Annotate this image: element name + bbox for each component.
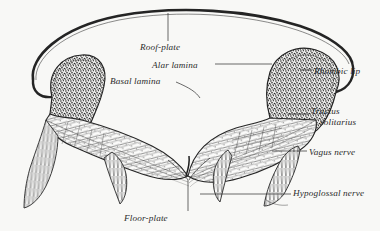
label-tractus-solitarius: Tractus solitarius bbox=[311, 106, 356, 128]
label-tractus-line2: solitarius bbox=[311, 117, 356, 128]
label-rhombic-lip: Rhombic lip bbox=[314, 66, 360, 77]
label-vagus-nerve: Vagus nerve bbox=[309, 147, 355, 158]
label-floor-plate: Floor-plate bbox=[124, 213, 168, 224]
figure-page: Roof-plate Alar lamina Basal lamina Rhom… bbox=[0, 0, 380, 231]
label-tractus-line1: Tractus bbox=[311, 106, 340, 116]
label-alar-lamina: Alar lamina bbox=[152, 60, 198, 71]
label-basal-lamina: Basal lamina bbox=[110, 76, 161, 87]
label-hypoglossal-nerve: Hypoglossal nerve bbox=[293, 188, 364, 199]
label-roof-plate: Roof-plate bbox=[140, 42, 180, 53]
left-hypoglossal-root bbox=[24, 120, 58, 208]
leader-basal-lamina bbox=[176, 82, 200, 98]
